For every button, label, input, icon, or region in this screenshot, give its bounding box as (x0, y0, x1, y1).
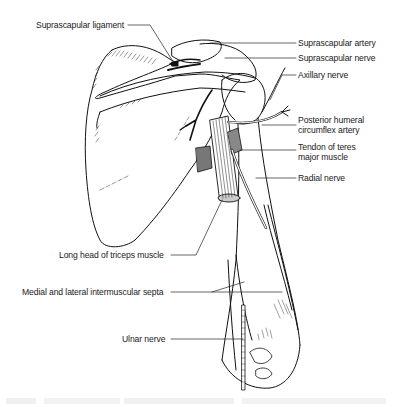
label-intermuscular-septa: Medial and lateral intermuscular septa (22, 287, 163, 297)
label-suprascapular-ligament: Suprascapular ligament (36, 20, 124, 30)
label-tendon-teres-major: Tendon of teres major muscle (298, 142, 356, 162)
label-axillary-nerve: Axillary nerve (298, 70, 348, 80)
label-line-1: Tendon of teres (298, 142, 356, 152)
label-posterior-humeral-circumflex-artery: Posterior humeral circumflex artery (298, 115, 364, 135)
label-ulnar-nerve: Ulnar nerve (122, 334, 165, 344)
label-line-2: circumflex artery (298, 125, 364, 135)
figure-caption-cropped (6, 398, 386, 404)
label-line-2: major muscle (298, 152, 356, 162)
label-radial-nerve: Radial nerve (298, 173, 345, 183)
label-line-1: Posterior humeral (298, 115, 364, 125)
ulnar-nerve-path (242, 305, 245, 390)
label-suprascapular-artery: Suprascapular artery (298, 38, 376, 48)
label-suprascapular-nerve: Suprascapular nerve (298, 53, 375, 63)
label-long-head-triceps: Long head of triceps muscle (59, 250, 164, 260)
